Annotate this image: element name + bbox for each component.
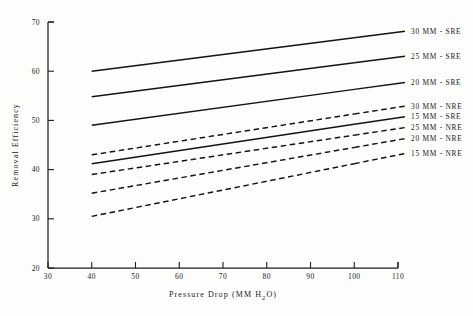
y-tick-label: 40 <box>32 165 40 174</box>
legend-label-1: 25 MM - SRE <box>411 52 461 61</box>
legend-label-6: 20 MM - NRE <box>411 134 463 143</box>
legend-label-5: 25 MM - NRE <box>411 123 463 132</box>
y-tick-label: 50 <box>32 116 40 125</box>
legend-label-3: 30 MM - NRE <box>411 102 463 111</box>
x-tick-label: 90 <box>306 272 314 281</box>
x-axis-title-pre: Pressure Drop (MM H <box>169 290 262 299</box>
x-tick-label: 60 <box>175 272 183 281</box>
y-axis-title: Removal Efficiency <box>11 103 20 187</box>
y-tick-label: 70 <box>32 18 40 27</box>
y-tick-label: 60 <box>32 67 40 76</box>
chart-container: 203040506070 30405060708090100110 Remova… <box>0 0 473 316</box>
x-tick-label: 30 <box>44 272 52 281</box>
x-tick-label: 50 <box>131 272 139 281</box>
x-tick-label: 100 <box>348 272 360 281</box>
legend-label-4: 15 MM - SRE <box>411 112 461 121</box>
x-tick-label: 70 <box>219 272 227 281</box>
x-axis-title-post: O) <box>266 290 277 299</box>
legend-label-7: 15 MM - NRE <box>411 149 463 158</box>
removal-efficiency-chart: 203040506070 30405060708090100110 Remova… <box>0 0 473 316</box>
y-tick-label: 20 <box>32 264 40 273</box>
legend-label-0: 30 MM - SRE <box>411 27 461 36</box>
legend-label-2: 20 MM - SRE <box>411 78 461 87</box>
x-tick-label: 40 <box>88 272 96 281</box>
x-tick-label: 110 <box>392 272 404 281</box>
y-tick-label: 30 <box>32 214 40 223</box>
x-tick-label: 80 <box>263 272 271 281</box>
